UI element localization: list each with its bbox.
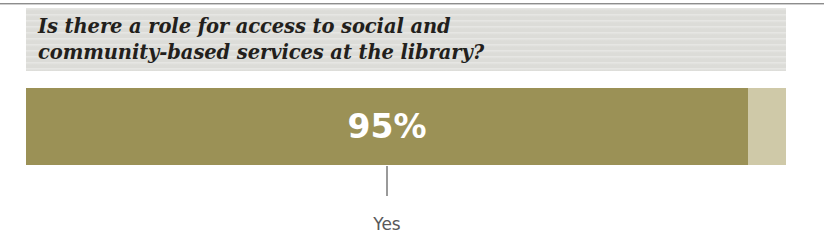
question-title: Is there a role for access to social and… — [38, 14, 738, 66]
category-label-yes: Yes — [327, 214, 447, 234]
bar-value-label: 95% — [26, 88, 748, 165]
single-bar-statistic-figure: Is there a role for access to social and… — [0, 0, 824, 243]
question-header-band: Is there a role for access to social and… — [26, 8, 786, 71]
leader-line-yes — [386, 166, 388, 196]
bar-track: 95% — [26, 88, 786, 165]
top-divider-rule-shadow — [0, 4, 824, 5]
